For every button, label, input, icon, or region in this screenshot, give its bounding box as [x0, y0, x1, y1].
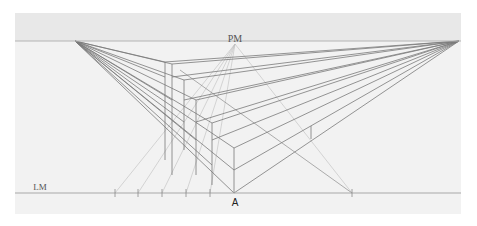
point-a-label: A	[232, 197, 239, 208]
lm-label: LM	[33, 182, 47, 192]
perspective-diagram: PM LM A	[0, 0, 477, 226]
pm-label: PM	[228, 33, 243, 44]
